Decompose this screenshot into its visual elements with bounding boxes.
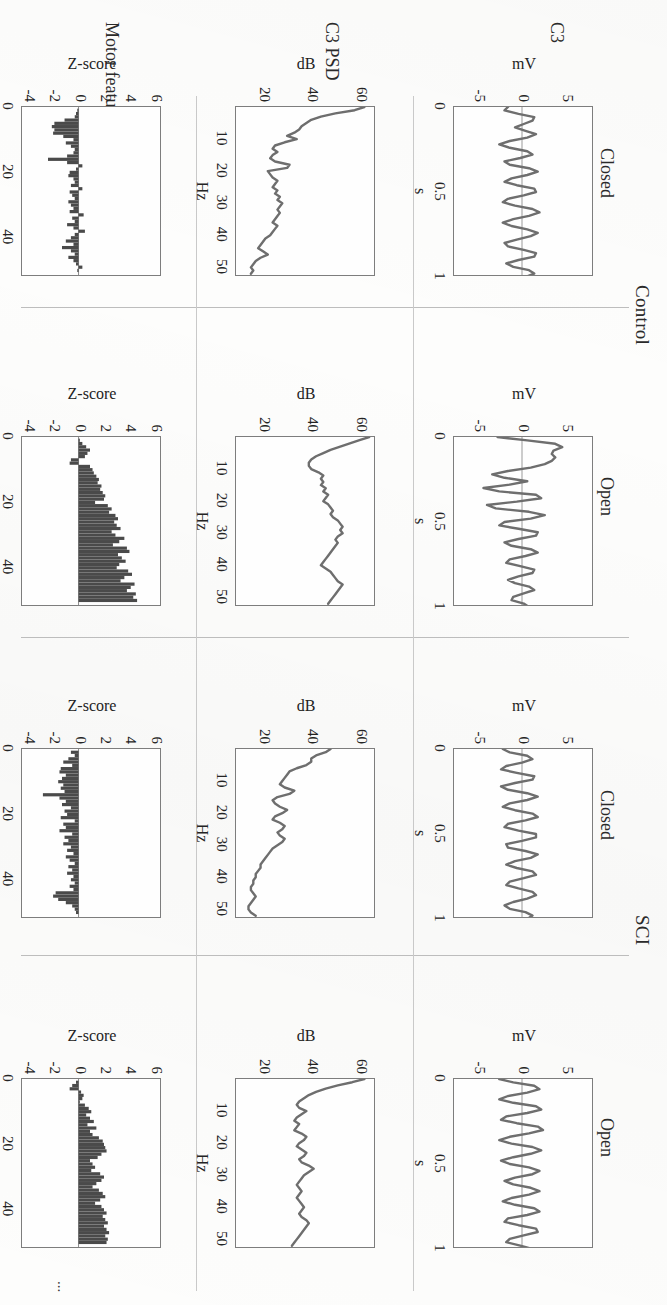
bar xyxy=(79,1202,96,1205)
bar xyxy=(72,832,78,835)
bar xyxy=(79,583,135,586)
ytick-psd-sci-closed-1: 40 xyxy=(304,718,321,744)
xtick-c3-sci-open-1: 0.5 xyxy=(431,1154,448,1172)
bar xyxy=(79,471,94,474)
ytick-psd-control-open-0: 20 xyxy=(256,406,273,432)
bar xyxy=(56,891,79,894)
bar xyxy=(71,236,79,239)
bar xyxy=(71,878,79,881)
bar xyxy=(75,862,79,865)
rotated-figure-canvas: Control SCI Closed Open Closed Open C3 C… xyxy=(0,0,667,1305)
xtick-psd-sci-open-3: 40 xyxy=(213,1197,230,1215)
bar xyxy=(54,128,78,131)
xtick-motor-sci-open-0: 0 xyxy=(0,1069,16,1087)
bar xyxy=(79,547,127,550)
bar xyxy=(76,262,79,265)
column-label-control-closed: Closed xyxy=(596,148,617,198)
bar xyxy=(75,148,79,151)
bar xyxy=(68,757,78,760)
bar xyxy=(73,226,78,229)
bar xyxy=(62,246,79,249)
bar xyxy=(66,800,79,803)
xtick-c3-sci-open-0: 0 xyxy=(431,1069,448,1087)
bar xyxy=(79,468,93,471)
bar xyxy=(75,881,79,884)
bar xyxy=(72,764,78,767)
ytick-motor-sci-closed-2: 0 xyxy=(72,718,89,744)
ylabel-psd-sci-closed: dB xyxy=(274,697,338,715)
bar xyxy=(59,829,78,832)
trace-line xyxy=(309,437,369,604)
ytick-motor-control-closed-2: 0 xyxy=(72,76,89,102)
bar xyxy=(79,164,83,167)
ylabel-c3-sci-open: mV xyxy=(492,1027,556,1045)
column-label-control-open: Open xyxy=(596,477,617,516)
bar xyxy=(79,1133,93,1136)
ylabel-psd-control-open: dB xyxy=(274,385,338,403)
trace-line xyxy=(248,749,330,916)
bar xyxy=(79,1153,102,1156)
bar xyxy=(62,777,79,780)
bar xyxy=(73,875,78,878)
bar xyxy=(79,1149,107,1152)
bar xyxy=(72,1084,78,1087)
ylabel-motor-sci-open: Z-score xyxy=(60,1027,124,1045)
bar xyxy=(75,908,79,911)
bar xyxy=(66,855,79,858)
bar xyxy=(79,494,106,497)
bar xyxy=(79,563,120,566)
plot-area-psd-control-closed xyxy=(235,107,374,276)
bar xyxy=(68,174,78,177)
ytick-motor-control-closed-3: 2 xyxy=(97,76,114,102)
ytick-c3-control-closed-0: -5 xyxy=(471,76,488,102)
bar xyxy=(75,115,79,118)
bar xyxy=(79,1234,106,1237)
bar xyxy=(79,517,118,520)
bar xyxy=(65,810,79,813)
bar xyxy=(68,865,78,868)
bar xyxy=(53,895,78,898)
bar xyxy=(79,1172,101,1175)
bar xyxy=(79,1123,88,1126)
xtick-psd-control-closed-3: 40 xyxy=(213,225,230,243)
ytick-c3-sci-open-0: -5 xyxy=(471,1048,488,1074)
bar xyxy=(75,197,79,200)
plot-area-psd-sci-open xyxy=(235,1079,374,1248)
ytick-motor-control-closed-0: -4 xyxy=(21,76,38,102)
bar xyxy=(79,569,129,572)
xlabel-psd-control-closed: Hz xyxy=(193,175,211,207)
xlabel-psd-sci-closed: Hz xyxy=(193,817,211,849)
bar xyxy=(79,530,112,533)
divider-sci-columns xyxy=(21,955,629,956)
bar xyxy=(79,579,121,582)
xtick-motor-sci-closed-0: 0 xyxy=(0,739,16,757)
ylabel-motor-sci-closed: Z-score xyxy=(60,697,124,715)
ytick-c3-control-closed-2: 5 xyxy=(559,76,576,102)
bar xyxy=(79,589,127,592)
panel-psd-control-closed: 1020304050Hz204060dB xyxy=(235,106,375,276)
bar xyxy=(79,488,101,491)
bar xyxy=(79,478,99,481)
bar xyxy=(73,852,78,855)
panel-motor-sci-closed: 02040Hz-4-20246Z-score xyxy=(21,748,161,918)
plot-area-c3-sci-open xyxy=(453,1079,592,1248)
ytick-motor-control-closed-5: 6 xyxy=(148,76,165,102)
bar xyxy=(70,210,79,213)
bar xyxy=(79,1100,80,1103)
xtick-psd-sci-closed-2: 30 xyxy=(213,835,230,853)
bar xyxy=(79,1159,90,1162)
bar xyxy=(79,560,126,563)
xtick-psd-control-open-4: 50 xyxy=(213,587,230,605)
column-label-sci-open: Open xyxy=(596,1118,617,1157)
bar xyxy=(66,141,79,144)
xtick-c3-control-closed-1: 0.5 xyxy=(431,182,448,200)
ylabel-c3-control-open: mV xyxy=(492,385,556,403)
bar xyxy=(68,256,78,259)
bar xyxy=(79,1090,82,1093)
bar xyxy=(71,458,79,461)
bar xyxy=(79,1192,103,1195)
bar xyxy=(71,249,79,252)
trace-line xyxy=(484,437,563,606)
bar xyxy=(53,132,78,135)
panel-c3-sci-open: 00.51s-505mV xyxy=(453,1078,593,1248)
